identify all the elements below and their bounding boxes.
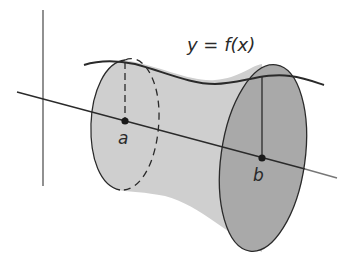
solid-of-revolution-diagram: a b y = f(x) [0, 0, 357, 272]
point-a-label: a [118, 128, 128, 148]
x-axis-extension [305, 169, 337, 178]
function-label: y = f(x) [186, 34, 255, 55]
point-b-label: b [253, 165, 264, 185]
point-b-marker [258, 154, 265, 161]
point-a-marker [121, 117, 128, 124]
